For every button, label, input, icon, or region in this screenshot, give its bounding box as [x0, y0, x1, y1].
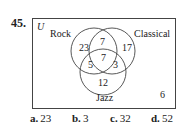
answer-c: c.32: [110, 112, 131, 124]
universe-label: U: [37, 21, 45, 32]
region-classical-jazz: 3: [113, 59, 118, 70]
venn-diagram: U Rock Classical Jazz 23 7 17 7 5 3 12 6: [0, 0, 185, 127]
set-label-rock: Rock: [50, 28, 71, 39]
region-rock-jazz: 5: [88, 59, 93, 70]
region-all-three: 7: [101, 52, 106, 63]
region-classical-only: 17: [122, 42, 132, 53]
region-rock-only: 23: [79, 42, 89, 53]
answer-a: a.23: [30, 112, 51, 124]
answer-d: d.52: [151, 112, 173, 124]
region-jazz-only: 12: [98, 77, 108, 88]
set-label-classical: Classical: [134, 28, 170, 39]
answer-b: b.3: [72, 112, 88, 124]
region-rock-classical: 7: [100, 36, 105, 47]
region-outside: 6: [160, 89, 165, 100]
set-label-jazz: Jazz: [96, 92, 114, 103]
